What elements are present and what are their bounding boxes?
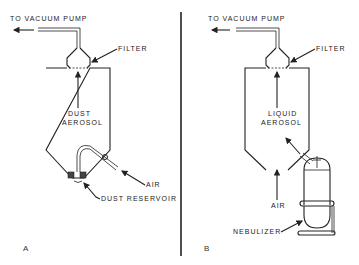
aerosol-label-a-2: AEROSOL: [62, 119, 103, 126]
vacuum-label-b: TO VACUUM PUMP: [208, 15, 286, 22]
aerosol-label-b-2: AEROSOL: [261, 119, 302, 126]
panel-b: TO VACUUM PUMP LIQUID AEROSOL FILTER AIR: [204, 15, 346, 253]
reservoir-block-left: [68, 172, 74, 178]
aerosol-chamber-diagram: TO VACUUM PUMP DUST AEROSOL FILTER AIR D…: [0, 0, 359, 265]
spray-arrow-b: [286, 138, 300, 154]
reservoir-label-a: DUST RESERVOIR: [101, 195, 177, 202]
aerosol-label-a-1: DUST: [68, 110, 91, 117]
nebulizer: [298, 156, 335, 235]
panel-label-a: A: [23, 244, 29, 253]
filter-a: [67, 48, 90, 68]
panel-label-b: B: [204, 244, 209, 253]
air-label-b: AIR: [271, 202, 286, 209]
air-label-a: AIR: [146, 181, 161, 188]
panel-a: TO VACUUM PUMP DUST AEROSOL FILTER AIR D…: [10, 15, 177, 253]
aerosol-label-b-1: LIQUID: [268, 110, 297, 118]
filter-label-b: FILTER: [316, 45, 346, 52]
vacuum-label-a: TO VACUUM PUMP: [10, 15, 88, 22]
reservoir-block-right: [80, 172, 86, 178]
filter-b: [266, 48, 289, 68]
filter-label-a: FILTER: [118, 45, 148, 52]
nebulizer-label-b: NEBULIZER: [233, 228, 281, 235]
